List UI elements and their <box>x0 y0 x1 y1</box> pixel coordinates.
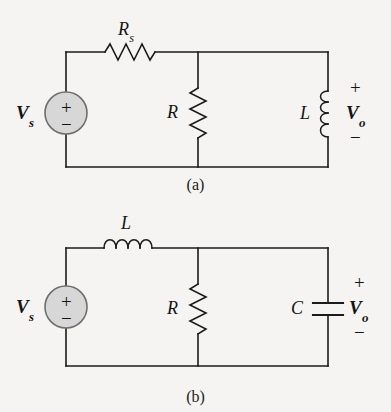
source-label-text: V <box>16 102 29 123</box>
shunt-resistor-symbol <box>190 284 206 334</box>
circuit-b-drawing <box>0 206 391 412</box>
source-minus-sign-a: − <box>61 115 72 134</box>
series-resistor-label-text: R <box>118 19 129 39</box>
output-plus-sign-b: + <box>354 273 365 292</box>
output-label-a: Vo <box>346 103 365 127</box>
figure-a: Vs + − Rs R L + Vo − (a) <box>0 0 391 206</box>
figure-b: Vs + − L R C + Vo − (b) <box>0 206 391 412</box>
source-label-a: Vs <box>16 103 34 127</box>
series-inductor-label-b: L <box>121 214 131 232</box>
series-inductor-label-text: L <box>121 213 131 233</box>
shunt-resistor-label-a: R <box>167 103 178 121</box>
load-inductor-label-text: L <box>300 103 310 123</box>
source-label-text: V <box>16 296 29 317</box>
figure-a-caption: (a) <box>0 176 391 194</box>
series-resistor-label-a: Rs <box>118 20 134 42</box>
load-inductor-label-a: L <box>300 104 310 122</box>
load-capacitor-label-text: C <box>291 298 303 318</box>
figure-b-caption: (b) <box>0 388 391 406</box>
source-label-b: Vs <box>16 297 34 321</box>
output-label-text: V <box>346 102 359 123</box>
series-inductor-symbol <box>104 240 152 248</box>
shunt-resistor-label-text: R <box>167 102 178 122</box>
output-minus-sign-a: − <box>350 128 361 147</box>
shunt-resistor-label-text: R <box>167 298 178 318</box>
source-minus-sign-b: − <box>61 309 72 328</box>
circuit-figure-pair: Vs + − Rs R L + Vo − (a) <box>0 0 391 412</box>
shunt-resistor-symbol <box>190 88 206 138</box>
source-label-subscript: s <box>29 309 34 324</box>
load-capacitor-label-b: C <box>291 299 303 317</box>
source-label-subscript: s <box>29 115 34 130</box>
output-plus-sign-a: + <box>350 78 361 97</box>
load-capacitor-symbol <box>313 303 343 315</box>
output-minus-sign-b: − <box>354 323 365 342</box>
series-resistor-label-subscript: s <box>129 31 134 45</box>
series-resistor-symbol <box>105 44 155 60</box>
output-label-b: Vo <box>349 298 368 322</box>
output-label-text: V <box>349 297 362 318</box>
shunt-resistor-label-b: R <box>167 299 178 317</box>
load-inductor-symbol <box>321 91 329 137</box>
